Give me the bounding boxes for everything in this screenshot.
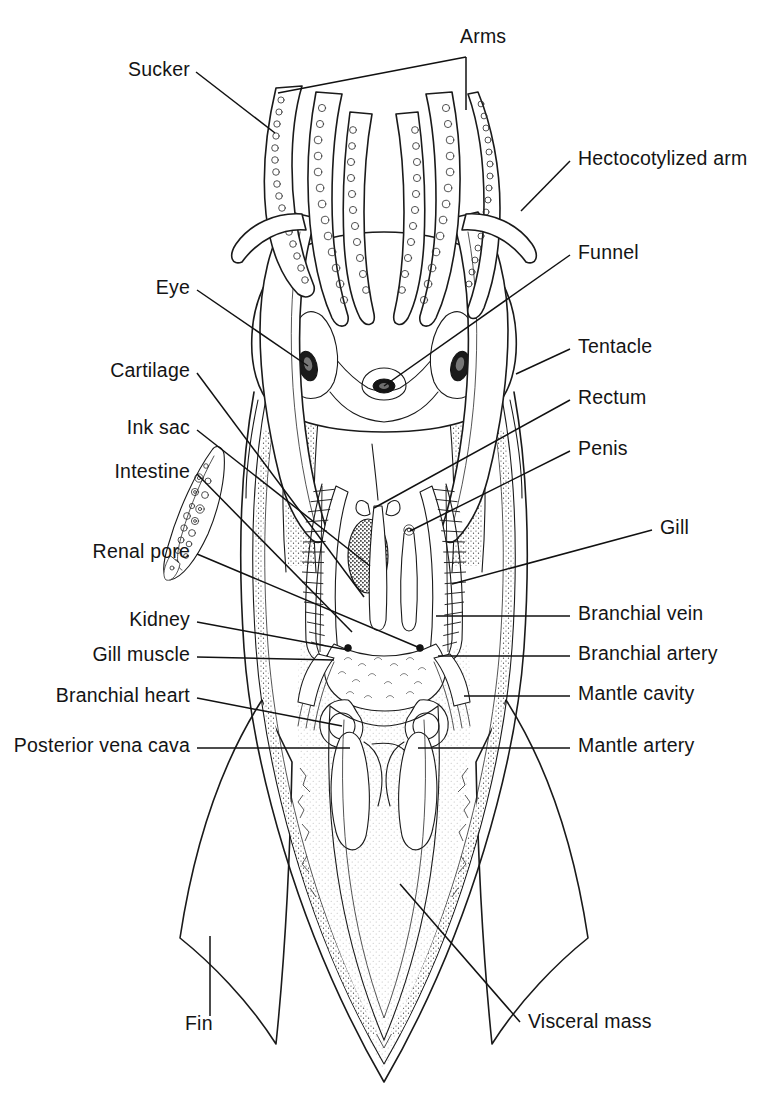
label-rectum: Rectum: [578, 386, 646, 408]
label-hectocotylized-arm: Hectocotylized arm: [578, 147, 747, 169]
label-visceral-mass: Visceral mass: [528, 1010, 652, 1032]
posterior-vena-cava: [331, 732, 369, 850]
label-kidney: Kidney: [129, 608, 190, 630]
label-sucker: Sucker: [128, 58, 190, 80]
label-mantle-cavity: Mantle cavity: [578, 682, 694, 704]
label-penis: Penis: [578, 437, 628, 459]
label-branchial-vein: Branchial vein: [578, 602, 703, 624]
leader-tentacle: [516, 349, 570, 374]
anatomy-figure: Arms Sucker Eye Cartilage Ink sac Intest…: [0, 0, 768, 1113]
leader-arms-left: [278, 57, 466, 93]
label-eye: Eye: [156, 276, 190, 298]
squid-anatomy-diagram: Arms Sucker Eye Cartilage Ink sac Intest…: [0, 0, 768, 1113]
label-gill-muscle: Gill muscle: [92, 643, 190, 665]
renal-pore-left: [345, 645, 352, 652]
label-branchial-artery: Branchial artery: [578, 642, 718, 664]
label-arms: Arms: [460, 25, 506, 47]
leader-gill: [452, 530, 652, 584]
label-renal-pore: Renal pore: [93, 540, 190, 562]
penis-organ: [401, 525, 418, 631]
label-gill: Gill: [660, 516, 689, 538]
squid-body-drawing: [164, 86, 588, 1082]
label-cartilage: Cartilage: [110, 359, 190, 381]
leader-hectocotylized-arm: [521, 161, 570, 211]
label-ink-sac: Ink sac: [127, 416, 190, 438]
label-mantle-artery: Mantle artery: [578, 734, 694, 756]
label-tentacle: Tentacle: [578, 335, 652, 357]
label-intestine: Intestine: [114, 460, 190, 482]
label-fin: Fin: [185, 1012, 213, 1034]
label-posterior-vena-cava: Posterior vena cava: [14, 734, 190, 756]
label-funnel: Funnel: [578, 241, 639, 263]
label-branchial-heart: Branchial heart: [56, 684, 191, 706]
leader-sucker: [196, 72, 275, 133]
